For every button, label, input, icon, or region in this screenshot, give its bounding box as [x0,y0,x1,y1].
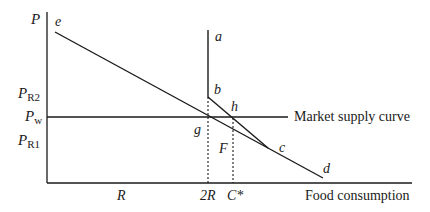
region-label-f: F [218,141,228,156]
y-axis-label: P [30,11,40,27]
point-label-c: c [279,140,286,155]
point-label-e: e [55,14,61,29]
point-label-h: h [231,99,238,114]
point-label-d: d [323,161,331,176]
food-subsidy-diagram: P PR2 Pw PR1 R 2R C* Food consumption e … [0,0,430,212]
tick-2r: 2R [200,188,216,203]
x-axis-label: Food consumption [305,188,410,203]
supply-curve-label: Market supply curve [294,109,410,124]
tick-p-w: Pw [24,108,42,126]
point-label-b: b [214,82,221,97]
tick-p-r1: PR1 [17,132,40,150]
demand-line-e-d [55,32,323,178]
tick-p-r2: PR2 [17,85,40,103]
tick-r: R [116,188,126,203]
segment-b-c [208,97,268,148]
point-label-a: a [215,29,222,44]
tick-c-star: C* [227,188,243,203]
point-label-g: g [194,122,201,137]
